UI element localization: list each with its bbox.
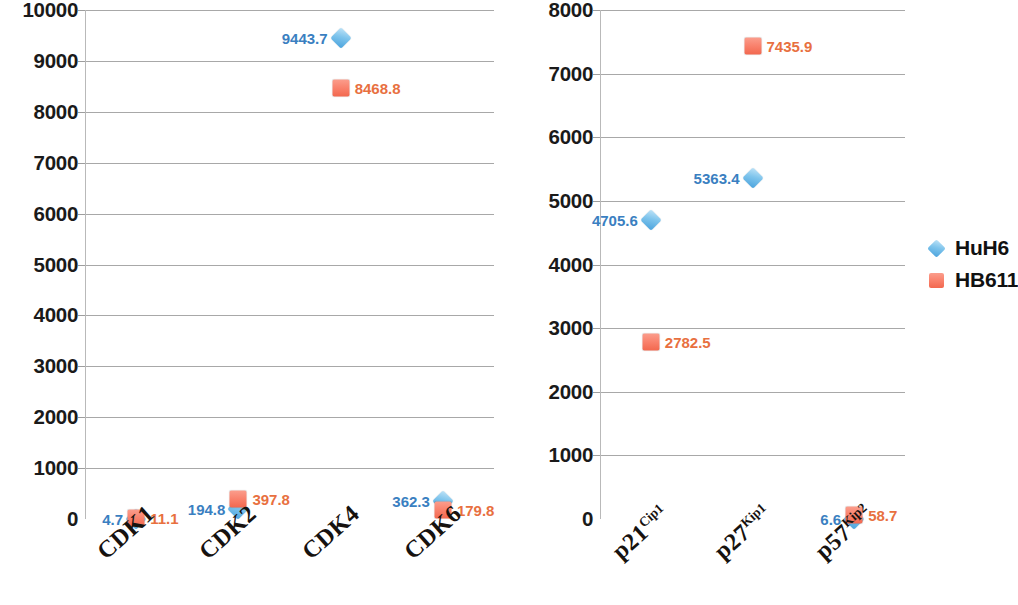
legend-item-label: HuH6 (955, 236, 1009, 260)
gridline (86, 163, 494, 164)
data-point-label: 8468.8 (355, 79, 401, 96)
y-tick-mark (593, 392, 600, 393)
square-marker-icon (929, 273, 944, 288)
y-tick-label: 9000 (0, 49, 78, 73)
y-tick-mark (593, 265, 600, 266)
y-tick-mark (78, 315, 85, 316)
y-tick-label: 7000 (510, 62, 593, 86)
chart-panel-left: 1000090008000700060005000400030002000100… (0, 0, 510, 605)
data-point-square (744, 37, 761, 54)
y-tick-mark (593, 201, 600, 202)
data-point-label: 397.8 (252, 490, 290, 507)
y-tick-mark (78, 112, 85, 113)
gridline (601, 265, 905, 266)
legend-item-label: HB611 (955, 268, 1018, 292)
gridline (601, 10, 905, 11)
y-tick-mark (593, 455, 600, 456)
y-tick-label: 10000 (0, 0, 78, 22)
y-tick-label: 8000 (0, 100, 78, 124)
y-tick-mark (78, 265, 85, 266)
data-point-square (642, 333, 659, 350)
gridline (86, 315, 494, 316)
y-tick-label: 2000 (510, 380, 593, 404)
gridline (86, 417, 494, 418)
plot-area-right (600, 10, 905, 519)
y-tick-label: 1000 (0, 456, 78, 480)
y-tick-label: 2000 (0, 405, 78, 429)
y-tick-mark (78, 10, 85, 11)
gridline (601, 74, 905, 75)
diamond-marker-icon (927, 239, 945, 257)
data-point-square (332, 79, 349, 96)
y-tick-label: 4000 (510, 253, 593, 277)
y-tick-label: 1000 (510, 443, 593, 467)
y-tick-label: 4000 (0, 303, 78, 327)
y-tick-label: 5000 (0, 253, 78, 277)
gridline (601, 328, 905, 329)
y-tick-label: 5000 (510, 189, 593, 213)
data-point-label: 362.3 (392, 492, 430, 509)
y-tick-label: 0 (0, 507, 78, 531)
legend-item-hb611[interactable]: HB611 (928, 264, 1018, 296)
y-tick-label: 3000 (0, 354, 78, 378)
data-point-label: 2782.5 (665, 333, 711, 350)
y-tick-label: 3000 (510, 316, 593, 340)
y-tick-mark (593, 137, 600, 138)
gridline (601, 201, 905, 202)
data-point-label: 5363.4 (694, 169, 740, 186)
y-tick-mark (593, 328, 600, 329)
data-point-label: 194.8 (188, 501, 226, 518)
y-tick-mark (593, 74, 600, 75)
plot-area-left (85, 10, 494, 519)
gridline (601, 137, 905, 138)
gridline (86, 265, 494, 266)
gridline (601, 455, 905, 456)
gridline (601, 392, 905, 393)
data-point-label: 7435.9 (767, 37, 813, 54)
gridline (86, 468, 494, 469)
gridline (86, 112, 494, 113)
y-tick-mark (78, 61, 85, 62)
legend-item-huh6[interactable]: HuH6 (928, 232, 1018, 264)
chart-panel-right: 800070006000500040003000200010000 4705.6… (510, 0, 1014, 605)
y-tick-mark (593, 10, 600, 11)
data-point-label: 4705.6 (592, 211, 638, 228)
gridline (86, 366, 494, 367)
y-tick-label: 6000 (510, 125, 593, 149)
y-tick-mark (78, 163, 85, 164)
gridline (86, 61, 494, 62)
y-tick-mark (78, 417, 85, 418)
gridline (86, 10, 494, 11)
gridline (86, 214, 494, 215)
data-point-label: 9443.7 (282, 30, 328, 47)
y-tick-mark (78, 366, 85, 367)
y-tick-label: 6000 (0, 202, 78, 226)
y-tick-mark (78, 468, 85, 469)
y-tick-mark (78, 214, 85, 215)
y-tick-label: 8000 (510, 0, 593, 22)
y-tick-label: 0 (510, 507, 593, 531)
y-tick-label: 7000 (0, 151, 78, 175)
legend: HuH6HB611 (928, 232, 1018, 296)
